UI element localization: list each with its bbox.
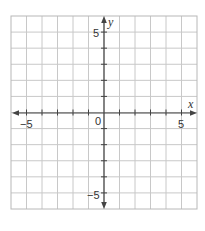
x-tick-label-pos5: 5	[178, 118, 184, 130]
y-axis-up-arrow-icon	[101, 16, 107, 23]
y-axis-down-arrow-icon	[101, 202, 107, 209]
x-axis-right-arrow-icon	[190, 110, 197, 116]
coordinate-plane: x y 0 −5 5 5 −5	[0, 0, 205, 231]
origin-label: 0	[95, 115, 101, 127]
y-tick-label-pos5: 5	[93, 27, 99, 39]
y-tick-label-neg5: −5	[87, 189, 100, 201]
x-axis-left-arrow-icon	[12, 110, 19, 116]
x-axis-label: x	[187, 97, 194, 111]
y-axis-label: y	[107, 15, 114, 29]
x-tick-label-neg5: −5	[20, 118, 33, 130]
